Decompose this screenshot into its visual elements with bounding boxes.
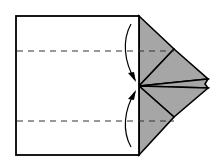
origami-diagram [0, 0, 222, 167]
gray-flaps [139, 16, 208, 155]
paper-square [16, 16, 139, 155]
